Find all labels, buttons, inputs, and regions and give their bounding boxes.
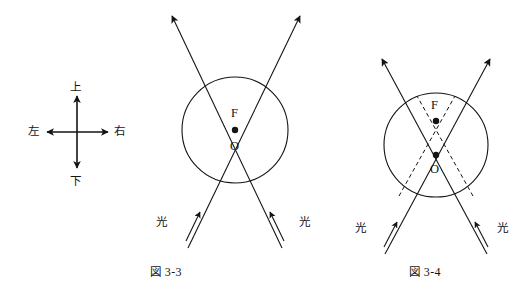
- fig-3-4-dashed-ray-left: [399, 96, 455, 196]
- compass-label-right: 右: [114, 126, 125, 138]
- fig-3-4-point-O-label: O: [430, 163, 439, 176]
- fig-3-4-dashed-ray-right: [417, 96, 473, 196]
- fig-3-3-ray-right: [172, 16, 282, 248]
- compass-label-up: 上: [70, 82, 81, 94]
- fig-3-3-light-label-right: 光: [299, 217, 310, 229]
- fig-3-4-caption-word: 図: [409, 265, 420, 279]
- fig-3-4-light-label-right: 光: [497, 223, 508, 235]
- fig-3-4-point-F-label: F: [431, 99, 438, 112]
- diagram-canvas: [0, 0, 526, 296]
- figure-page: 上 下 左 右 F O 光 光 F O 光 光 図 3-3 図 3-4: [0, 0, 526, 296]
- fig-3-3-light-label-left: 光: [156, 217, 167, 229]
- fig-3-4-light-label-left: 光: [355, 223, 366, 235]
- fig-3-4-caption-number: 3-4: [424, 265, 441, 279]
- compass-label-down: 下: [70, 176, 81, 188]
- fig-3-3-point-O-label: O: [230, 140, 239, 153]
- direction-compass-axes: [47, 96, 108, 168]
- figure-3-3-graphics: [172, 16, 300, 248]
- fig-3-3-point-F-label: F: [231, 107, 238, 120]
- fig-3-3-caption-number: 3-3: [165, 265, 182, 279]
- fig-3-4-point-O-dot: [433, 152, 439, 158]
- fig-3-3-point-O-dot: [232, 127, 238, 133]
- fig-3-3-ray-left: [188, 16, 300, 248]
- fig-3-3-caption-word: 図: [150, 265, 161, 279]
- fig-3-4-caption: 図 3-4: [409, 263, 441, 280]
- figure-3-4-graphics: [382, 59, 490, 254]
- fig-3-4-point-F-dot: [433, 118, 439, 124]
- compass-label-left: 左: [28, 126, 39, 138]
- fig-3-3-caption: 図 3-3: [150, 263, 182, 280]
